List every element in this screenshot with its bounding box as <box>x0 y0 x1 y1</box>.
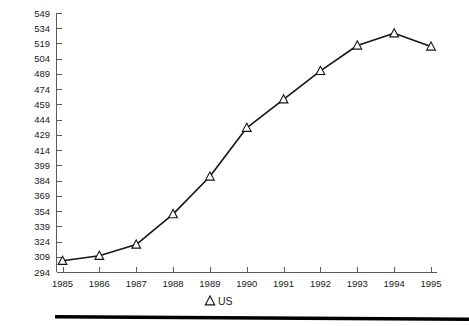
y-tick-label: 429 <box>34 129 50 140</box>
chart-legend: US <box>205 295 232 307</box>
y-tick-label: 414 <box>34 145 50 156</box>
y-tick-label: 474 <box>34 84 50 95</box>
x-tick-label: 1992 <box>310 278 331 289</box>
legend-label-us: US <box>218 295 233 307</box>
y-tick-label: 534 <box>34 23 50 34</box>
x-tick-label: 1989 <box>199 278 220 289</box>
y-tick-label: 489 <box>34 68 50 79</box>
x-tick-label: 1985 <box>52 278 73 289</box>
y-tick-label: 519 <box>34 38 50 49</box>
x-tick-label: 1990 <box>236 278 257 289</box>
x-tick-label: 1987 <box>126 278 147 289</box>
x-tick-label: 1991 <box>273 278 294 289</box>
y-tick-label: 444 <box>34 114 50 125</box>
x-tick-label: 1988 <box>162 278 183 289</box>
y-tick-label: 369 <box>34 190 50 201</box>
y-tick-label: 459 <box>34 99 50 110</box>
y-tick-label: 354 <box>34 206 50 217</box>
y-tick-label: 339 <box>34 221 50 232</box>
y-tick-label: 384 <box>34 175 50 186</box>
line-chart: 2943093243393543693843994144294444594744… <box>0 0 469 326</box>
y-tick-label: 549 <box>34 8 50 19</box>
chart-figure: 2943093243393543693843994144294444594744… <box>0 0 469 326</box>
y-tick-label: 309 <box>34 251 50 262</box>
x-tick-label: 1993 <box>347 278 368 289</box>
x-tick-label: 1986 <box>89 278 110 289</box>
x-tick-label: 1995 <box>420 278 441 289</box>
y-tick-label: 504 <box>34 53 50 64</box>
y-tick-label: 324 <box>34 236 50 247</box>
y-tick-label: 294 <box>34 267 50 278</box>
x-tick-label: 1994 <box>384 278 405 289</box>
y-tick-label: 399 <box>34 160 50 171</box>
